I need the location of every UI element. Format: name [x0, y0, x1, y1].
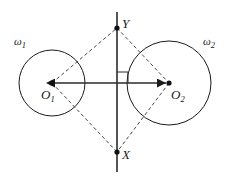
right-angle-marker	[117, 72, 128, 83]
point-dot-o2	[166, 80, 171, 85]
dashed-segment-x-o1	[52, 83, 117, 152]
dashed-segment-o2-x	[117, 83, 169, 152]
label-point-y: Y	[122, 16, 131, 31]
geometry-canvas: ω1 ω2 O1 O2 Y X	[0, 0, 233, 180]
dashed-segment-o1-y	[52, 28, 117, 83]
label-center-o2: O2	[171, 87, 185, 104]
point-dot-o1	[49, 80, 54, 85]
label-omega-2: ω2	[203, 35, 216, 50]
label-omega-1: ω1	[14, 35, 26, 50]
point-dot-x	[114, 149, 119, 154]
geometry-figure: ω1 ω2 O1 O2 Y X	[0, 0, 233, 180]
dashed-segment-y-o2	[117, 28, 169, 83]
label-point-x: X	[121, 147, 131, 162]
point-dot-y	[114, 25, 119, 30]
label-center-o1: O1	[41, 87, 55, 104]
